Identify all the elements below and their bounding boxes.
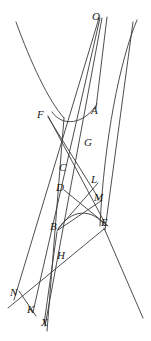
point-label-a: A bbox=[91, 105, 98, 116]
point-label-o: O bbox=[92, 11, 100, 22]
curve-lower-conic-right-branch bbox=[100, 20, 137, 226]
point-label-f: F bbox=[37, 109, 44, 120]
point-label-e: E bbox=[101, 217, 108, 228]
point-label-n: N bbox=[10, 287, 17, 298]
line-O-to-K bbox=[33, 18, 100, 312]
line-A-upper-ray bbox=[96, 17, 107, 108]
line-right-outer-ray bbox=[105, 22, 133, 230]
line-B-to-X bbox=[44, 232, 57, 324]
geometry-figure: OFAGCLDMBEHNKX bbox=[0, 0, 151, 341]
point-label-l: L bbox=[91, 174, 97, 185]
point-label-h: H bbox=[57, 250, 65, 261]
point-label-x: X bbox=[41, 317, 48, 328]
curve-upper-conic-left-branch bbox=[16, 22, 64, 118]
point-label-d: D bbox=[56, 182, 64, 193]
point-label-k: K bbox=[27, 304, 34, 315]
figure-canvas bbox=[0, 0, 151, 341]
point-label-b: B bbox=[50, 221, 57, 232]
point-label-c: C bbox=[59, 162, 66, 173]
line-E-to-bottom-right bbox=[104, 228, 143, 318]
point-label-m: M bbox=[94, 192, 103, 203]
line-O-to-X bbox=[45, 18, 102, 326]
point-label-g: G bbox=[84, 137, 92, 148]
